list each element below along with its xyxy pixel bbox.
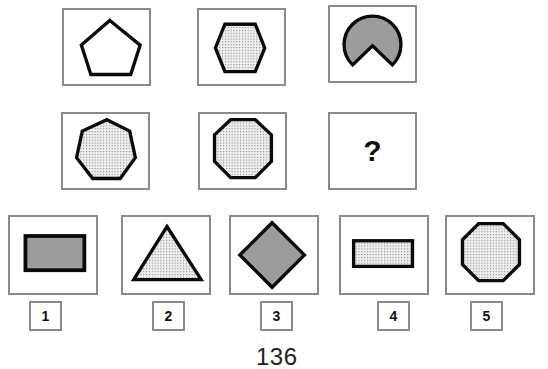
page-number: 136	[256, 343, 298, 369]
diamond-shape	[231, 217, 317, 293]
heptagon-shape	[63, 114, 148, 188]
option-3-figure[interactable]	[229, 215, 319, 295]
grid-cell-octagon	[198, 112, 287, 190]
option-2-label[interactable]: 2	[152, 301, 185, 331]
grid-cell-hexagon	[197, 8, 286, 86]
hexagon-shape	[199, 10, 284, 84]
option-5-label[interactable]: 5	[470, 301, 503, 331]
question-mark: ?	[330, 114, 415, 188]
octagon-shape	[447, 217, 533, 293]
option-4-figure[interactable]	[339, 215, 429, 295]
grid-cell-missing: ?	[328, 112, 417, 190]
grid-cell-notched-circle	[328, 5, 417, 83]
option-1-label[interactable]: 1	[29, 301, 62, 331]
option-3-label[interactable]: 3	[260, 301, 293, 331]
option-5-figure[interactable]	[445, 215, 535, 295]
option-1-figure[interactable]	[8, 215, 98, 295]
triangle-shape	[123, 217, 209, 293]
grid-cell-heptagon	[61, 112, 150, 190]
pentagon-shape	[64, 10, 149, 84]
octagon-shape	[200, 114, 285, 188]
rectangle-shape	[10, 217, 96, 293]
option-2-figure[interactable]	[121, 215, 211, 295]
notched-circle-shape	[330, 7, 415, 81]
option-4-label[interactable]: 4	[377, 301, 410, 331]
grid-cell-pentagon	[62, 8, 151, 86]
thin-rectangle-shape	[341, 217, 427, 293]
